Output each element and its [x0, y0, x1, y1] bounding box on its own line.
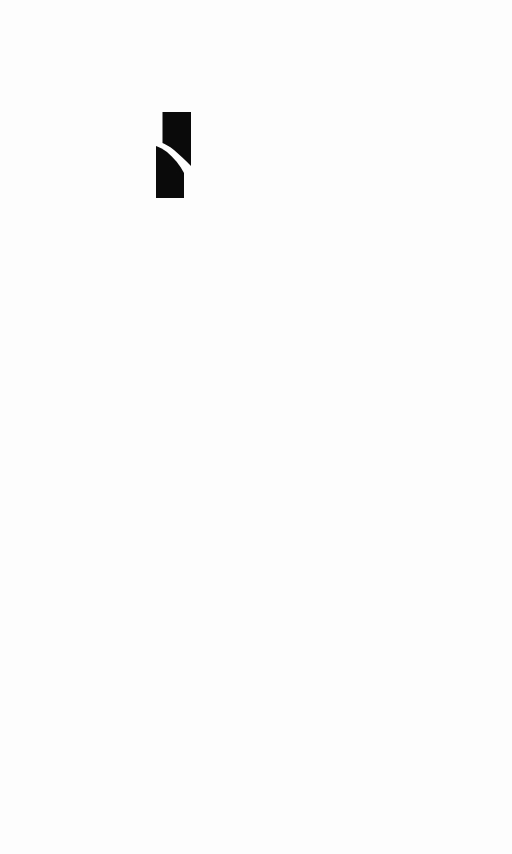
splash-screen [0, 0, 512, 854]
split-bar-logo-icon [150, 105, 200, 205]
app-logo [150, 105, 200, 205]
